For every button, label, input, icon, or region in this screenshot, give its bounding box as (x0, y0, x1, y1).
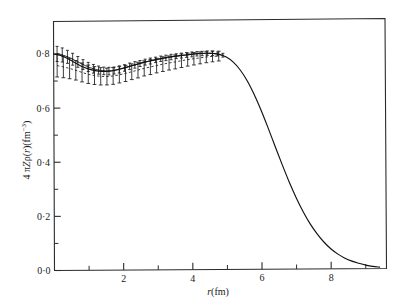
x-axis-title: r(fm) (207, 286, 229, 298)
x-tick-label: 2 (121, 273, 126, 284)
x-tick-label: 6 (260, 272, 265, 283)
figure-root: 0·00·20·40·60·8 2468 r(fm) 4 πZρ(r)(fm−3… (0, 0, 406, 305)
y-tick-label: 0·6 (37, 103, 50, 114)
figure-background (0, 0, 406, 305)
x-tick-label: 8 (329, 272, 334, 283)
x-tick-label: 4 (190, 273, 195, 284)
y-tick-label: 0·0 (37, 265, 50, 276)
y-tick-label: 0·4 (37, 157, 50, 168)
y-tick-label: 0·2 (37, 211, 50, 222)
y-tick-label: 0·8 (36, 48, 49, 59)
charge-density-chart: 0·00·20·40·60·8 2468 r(fm) 4 πZρ(r)(fm−3… (0, 0, 406, 305)
